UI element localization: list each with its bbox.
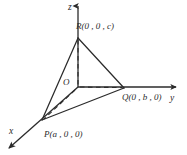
coordinate-diagram: z y x O R(0 , 0 , c) Q(0 , b , 0) P(a , … (0, 0, 187, 155)
z-axis-label: z (68, 3, 72, 13)
edge-R-Q (78, 38, 124, 88)
x-axis-label: x (9, 127, 13, 137)
point-label-P: P(a , 0 , 0) (44, 130, 83, 139)
point-label-R: R(0 , 0 , c) (76, 22, 114, 31)
point-label-Q: Q(0 , b , 0) (122, 93, 162, 102)
y-axis-label: y (170, 94, 174, 104)
origin-label: O (63, 78, 70, 87)
